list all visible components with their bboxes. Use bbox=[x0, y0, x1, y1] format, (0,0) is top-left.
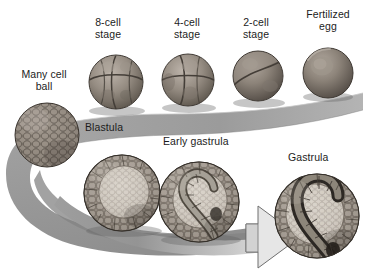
label-4-cell-stage: 4-cell stage bbox=[157, 17, 217, 40]
label-8-cell-stage: 8-cell stage bbox=[78, 17, 138, 40]
embryo-fertilized-egg bbox=[303, 48, 353, 98]
label-many-cell-ball: Many cell ball bbox=[6, 69, 82, 92]
diagram-canvas: 8-cell stage 4-cell stage 2-cell stage F… bbox=[0, 0, 371, 275]
embryo-early-gastrula bbox=[159, 162, 239, 242]
embryo-blastula bbox=[84, 155, 160, 231]
embryo-2-cell bbox=[233, 50, 285, 101]
label-fertilized-egg: Fertilized egg bbox=[295, 9, 361, 32]
embryo-4-cell bbox=[162, 54, 214, 106]
label-blastula: Blastula bbox=[85, 122, 151, 134]
embryo-many-cell-ball bbox=[15, 103, 80, 168]
label-2-cell-stage: 2-cell stage bbox=[228, 17, 284, 40]
embryo-gastrula bbox=[275, 174, 359, 258]
label-early-gastrula: Early gastrula bbox=[163, 136, 253, 148]
label-gastrula: Gastrula bbox=[288, 152, 350, 164]
embryo-8-cell bbox=[89, 55, 143, 109]
